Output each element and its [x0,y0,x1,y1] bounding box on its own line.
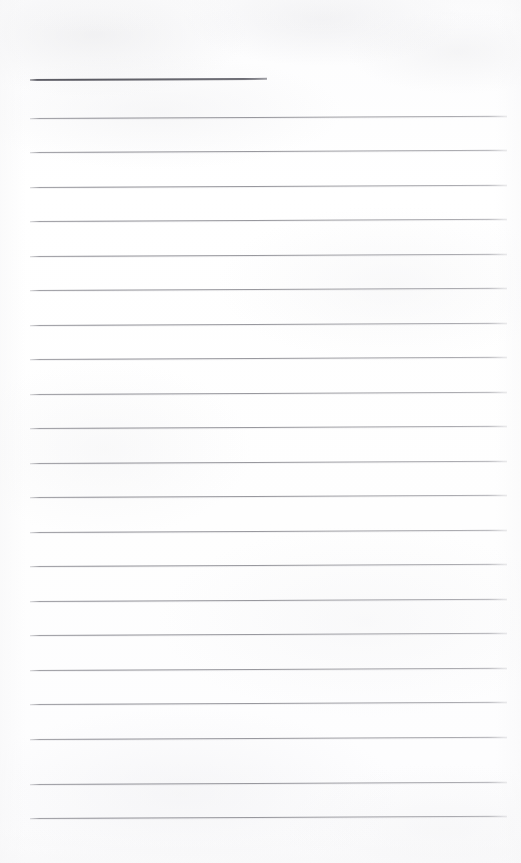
header-rule-line [30,78,267,81]
ruled-line [30,150,507,153]
ruled-line [30,288,507,291]
ruled-line [30,495,507,498]
ruled-lines-layer [0,0,521,863]
ruled-line [30,461,507,464]
ruled-line [30,737,507,740]
ruled-line [30,254,507,257]
ruled-line [30,816,507,819]
ruled-line [30,702,507,705]
scanned-page [0,0,521,863]
ruled-line [30,116,507,119]
ruled-line [30,219,507,222]
ruled-line [30,633,507,636]
ruled-line [30,323,507,326]
ruled-line [30,599,507,602]
ruled-line [30,668,507,671]
ruled-line [30,530,507,533]
ruled-line [30,185,507,188]
ruled-line [30,782,507,785]
ruled-line [30,392,507,395]
ruled-line [30,426,507,429]
ruled-line [30,564,507,567]
ruled-line [30,357,507,360]
